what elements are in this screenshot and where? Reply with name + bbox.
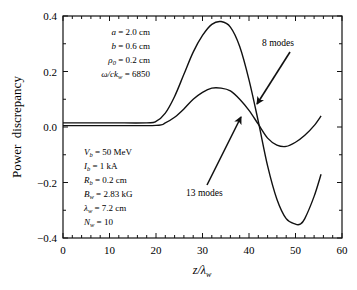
x-tick-label: 20: [151, 244, 163, 256]
parameter-line: Ib = 1 kA: [83, 161, 118, 172]
x-tick-label: 30: [197, 244, 209, 256]
y-tick-label: 0.4: [43, 10, 57, 22]
parameter-line: b = 0.6 cm: [111, 41, 150, 51]
x-tick-label: 40: [244, 244, 256, 256]
parameter-line: Nw = 10: [83, 217, 113, 228]
y-tick-label: 0.2: [43, 66, 57, 78]
parameter-line: Rb = 0.2 cm: [83, 175, 127, 186]
y-tick-label: −0.2: [37, 177, 57, 189]
curve-13-modes: [63, 88, 321, 147]
annotation-13-modes: 13 modes: [186, 188, 223, 198]
y-tick-label: −0.4: [37, 232, 57, 244]
x-tick-label: 50: [290, 244, 302, 256]
annotation-8-modes: 8 modes: [262, 38, 294, 48]
parameter-line: Vb = 50 MeV: [84, 147, 133, 158]
parameters-bottom: Vb = 50 MeVIb = 1 kARb = 0.2 cmBw = 2.83…: [83, 147, 133, 228]
parameter-line: a = 2.0 cm: [111, 27, 150, 37]
x-tick-label: 0: [60, 244, 66, 256]
x-tick-label: 10: [104, 244, 116, 256]
parameter-line: ρ0 = 0.2 cm: [107, 55, 150, 66]
power-discrepancy-chart: 0102030405060 0.40.20.0−0.2−0.4 8 modes …: [0, 0, 357, 290]
x-tick-labels: 0102030405060: [60, 244, 348, 256]
x-axis-label: z/λw: [192, 263, 212, 279]
parameter-line: ω/ckw = 6850: [101, 69, 150, 80]
parameter-line: λw = 7.2 cm: [83, 203, 126, 214]
arrow-8-modes: [257, 52, 290, 104]
y-tick-label: 0.0: [43, 121, 57, 133]
arrow-13-modes: [207, 117, 241, 185]
y-tick-labels: 0.40.20.0−0.2−0.4: [37, 10, 57, 244]
x-tick-label: 60: [337, 244, 349, 256]
parameter-line: Bw = 2.83 kG: [84, 189, 133, 200]
parameters-top: a = 2.0 cmb = 0.6 cmρ0 = 0.2 cmω/ckw = 6…: [101, 27, 150, 80]
y-axis-label: Power discrepancy: [9, 76, 24, 178]
